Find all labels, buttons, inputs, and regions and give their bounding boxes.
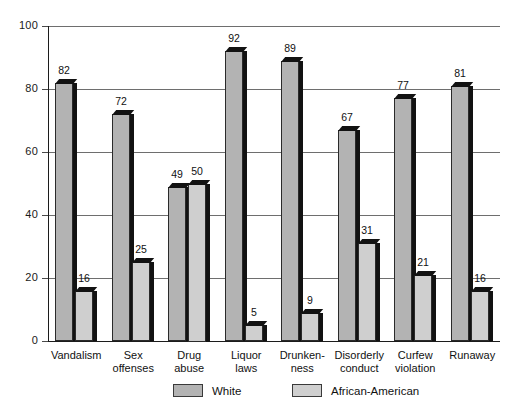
bar-african-american-3	[245, 321, 263, 341]
bar-face	[112, 114, 130, 341]
gridline-80	[48, 89, 500, 90]
bar-side-shadow	[243, 51, 247, 341]
bar-face	[245, 325, 263, 341]
x-axis-label-5: Disorderly conduct	[327, 349, 392, 374]
x-axis-label-0: Vandalism	[44, 349, 109, 362]
bar-face	[188, 184, 206, 342]
x-axis-line	[48, 341, 500, 342]
bar-side-shadow	[376, 243, 380, 341]
value-label: 92	[219, 33, 249, 44]
bar-face	[414, 275, 432, 341]
bar-african-american-6	[414, 271, 432, 341]
bar-african-american-7	[471, 287, 489, 341]
value-label: 25	[126, 244, 156, 255]
bar-side-shadow	[489, 291, 493, 341]
y-tick-label-60: 60	[4, 146, 38, 157]
bar-face	[358, 243, 376, 341]
bar-side-shadow	[432, 275, 436, 341]
bar-african-american-4	[301, 309, 319, 341]
bar-white-7	[451, 82, 469, 341]
x-axis-label-3: Liquor laws	[214, 349, 279, 374]
bar-white-6	[394, 94, 412, 341]
legend-label: White	[212, 385, 241, 397]
bar-chart: 1008060402008216Vandalism7225Sex offense…	[0, 0, 517, 407]
bar-face	[451, 86, 469, 341]
x-axis-label-4: Drunken- ness	[270, 349, 335, 374]
value-label: 16	[465, 273, 495, 284]
bar-face	[55, 83, 73, 341]
bar-face	[225, 51, 243, 341]
y-tick-label-40: 40	[4, 209, 38, 220]
value-label: 50	[182, 166, 212, 177]
value-label: 5	[239, 307, 269, 318]
gridline-100	[48, 26, 500, 27]
value-label: 77	[388, 80, 418, 91]
bar-african-american-0	[75, 287, 93, 341]
x-axis-label-6: Curfew violation	[383, 349, 448, 374]
y-tick-label-80: 80	[4, 83, 38, 94]
bar-face	[132, 262, 150, 341]
bar-side-shadow	[263, 325, 267, 341]
bar-african-american-2	[188, 180, 206, 342]
value-label: 89	[275, 43, 305, 54]
bar-white-0	[55, 79, 73, 341]
value-label: 82	[49, 65, 79, 76]
value-label: 16	[69, 273, 99, 284]
x-axis-label-1: Sex offenses	[101, 349, 166, 374]
value-label: 72	[106, 96, 136, 107]
x-axis-label-2: Drug abuse	[157, 349, 222, 374]
y-tick-label-0: 0	[4, 335, 38, 346]
value-label: 21	[408, 257, 438, 268]
bar-face	[394, 98, 412, 341]
bar-side-shadow	[206, 184, 210, 342]
bar-face	[301, 313, 319, 341]
bar-white-1	[112, 110, 130, 341]
bar-side-shadow	[319, 313, 323, 341]
bar-side-shadow	[93, 291, 97, 341]
bar-african-american-1	[132, 258, 150, 341]
y-tick-label-20: 20	[4, 272, 38, 283]
value-label: 9	[295, 295, 325, 306]
x-axis-label-7: Runaway	[440, 349, 505, 362]
bar-white-3	[225, 47, 243, 341]
bar-face	[75, 291, 93, 341]
value-label: 81	[445, 68, 475, 79]
y-tick-label-100: 100	[4, 20, 38, 31]
bar-african-american-5	[358, 239, 376, 341]
bar-face	[168, 187, 186, 341]
legend-swatch-icon	[173, 384, 203, 397]
bar-side-shadow	[150, 262, 154, 341]
legend-item-white[interactable]: White	[173, 384, 241, 397]
legend-label: African-American	[331, 385, 419, 397]
legend-swatch-icon	[292, 384, 322, 397]
value-label: 67	[332, 112, 362, 123]
bar-white-2	[168, 183, 186, 341]
legend-item-african-american[interactable]: African-American	[292, 384, 419, 397]
bar-face	[471, 291, 489, 341]
value-label: 31	[352, 225, 382, 236]
